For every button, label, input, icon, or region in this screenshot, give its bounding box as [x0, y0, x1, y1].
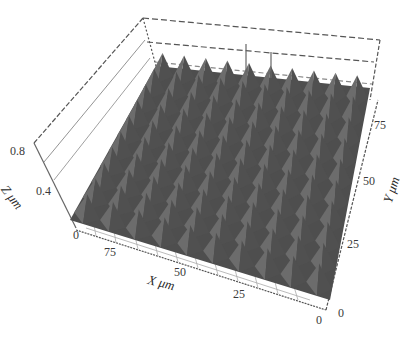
y-tick-25: 25	[347, 237, 359, 252]
z-tick-0: 0	[73, 228, 79, 243]
y-tick-50: 50	[363, 174, 375, 189]
z-tick-0.4: 0.4	[36, 184, 51, 199]
y-tick-0: 0	[338, 306, 344, 321]
z-tick-0.8: 0.8	[10, 144, 25, 159]
x-tick-0: 0	[316, 313, 322, 328]
x-tick-75: 75	[104, 245, 116, 260]
x-tick-25: 25	[233, 287, 245, 302]
surface-plot	[0, 0, 402, 340]
y-tick-75: 75	[374, 118, 386, 133]
surface	[70, 53, 370, 300]
